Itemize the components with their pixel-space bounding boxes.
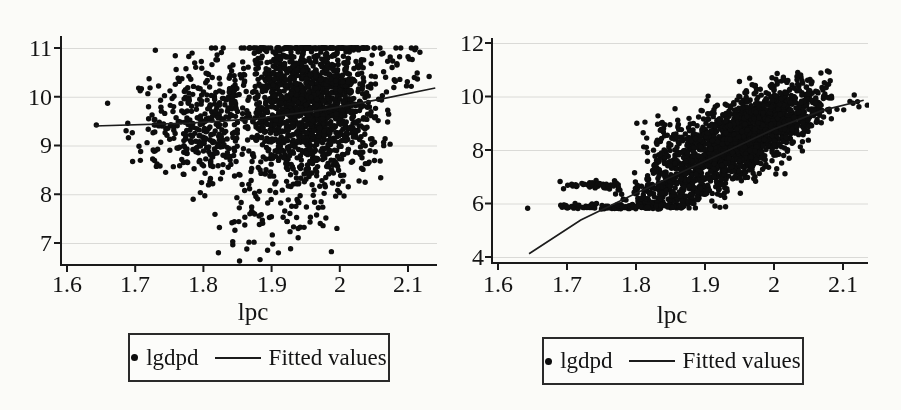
- x-tick-label: 2.1: [811, 271, 875, 297]
- scatter-plot-area-right: [478, 30, 874, 280]
- x-tick-label: 2: [308, 271, 372, 297]
- legend-entry-fitted: Fitted values: [629, 349, 801, 373]
- legend-label-fitted: Fitted values: [269, 346, 387, 370]
- x-tick-label: 2.1: [376, 271, 440, 297]
- x-tick-label: 1.7: [103, 271, 167, 297]
- y-tick-label: 4: [440, 244, 484, 270]
- y-tick-label: 9: [8, 132, 52, 158]
- fitted-line-icon: [215, 357, 261, 359]
- legend-entry-lgdpd: lgdpd: [131, 346, 198, 370]
- scatter-marker-icon: [131, 354, 138, 361]
- y-tick-label: 11: [8, 35, 52, 61]
- x-tick-label: 1.9: [673, 271, 737, 297]
- legend-entry-fitted: Fitted values: [215, 346, 387, 370]
- y-tick-label: 6: [440, 190, 484, 216]
- x-tick-label: 1.9: [240, 271, 304, 297]
- x-axis-title-left: lpc: [209, 299, 297, 325]
- x-tick-label: 1.8: [171, 271, 235, 297]
- scatter-marker-icon: [545, 358, 552, 365]
- scatter-plot-area-left: [48, 30, 444, 280]
- y-tick-label: 10: [440, 83, 484, 109]
- legend-left: lgdpd Fitted values: [128, 333, 390, 382]
- legend-label-fitted: Fitted values: [683, 349, 801, 373]
- legend-entry-lgdpd: lgdpd: [545, 349, 612, 373]
- x-tick-label: 1.7: [535, 271, 599, 297]
- legend-label-lgdpd: lgdpd: [146, 346, 198, 370]
- y-tick-label: 7: [8, 230, 52, 256]
- y-tick-label: 10: [8, 84, 52, 110]
- y-tick-label: 8: [8, 181, 52, 207]
- legend-right: lgdpd Fitted values: [542, 337, 804, 385]
- x-tick-label: 1.6: [35, 271, 99, 297]
- y-tick-label: 8: [440, 137, 484, 163]
- y-tick-label: 12: [440, 30, 484, 56]
- x-tick-label: 1.6: [466, 271, 530, 297]
- x-tick-label: 2: [742, 271, 806, 297]
- figure-page: 11 10 9 8 7 1.6 1.7 1.8 1.9 2 2.1 lpc lg…: [0, 0, 901, 410]
- fitted-line-icon: [629, 360, 675, 362]
- x-axis-title-right: lpc: [628, 302, 716, 328]
- legend-label-lgdpd: lgdpd: [560, 349, 612, 373]
- x-tick-label: 1.8: [604, 271, 668, 297]
